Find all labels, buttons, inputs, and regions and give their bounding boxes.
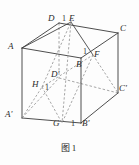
- edge-A-D: [22, 23, 59, 48]
- length-marker-HDprime: 1: [45, 84, 49, 92]
- length-marker-GBprime: 1: [71, 120, 75, 128]
- section-dashed-group: [22, 22, 118, 123]
- length-marker-DE: 1: [62, 15, 66, 23]
- section-line-Aprime-H: [22, 87, 42, 118]
- edge-A-B: [22, 48, 81, 58]
- section-line-F-Cprime: [93, 55, 118, 93]
- vertex-label-D: D: [48, 14, 55, 23]
- vertex-label-B: B: [76, 60, 82, 69]
- vertex-label-A: A: [8, 42, 14, 51]
- point-label-H: H: [32, 80, 39, 89]
- figure-caption: 图1: [0, 141, 139, 154]
- edge-D-C: [59, 23, 118, 33]
- visible-edges-group: [22, 23, 118, 123]
- length-marker-BF: 1: [83, 48, 87, 56]
- point-label-E: E: [69, 14, 75, 23]
- vertex-label-D-prime: D': [51, 70, 59, 79]
- vertex-label-C-prime: C': [119, 84, 127, 93]
- vertex-label-B-prime: B': [82, 119, 89, 128]
- point-label-F: F: [94, 50, 100, 59]
- point-label-G: G: [53, 119, 60, 128]
- section-line-A-E: [22, 22, 71, 48]
- vertex-label-C: C: [120, 24, 126, 33]
- vertex-label-A-prime: A': [5, 110, 12, 119]
- figure-container: A D C B A' D' C' B' E F G H 1 1 1 1 图1: [0, 0, 139, 165]
- caption-label: 图: [61, 143, 72, 153]
- caption-number: 1: [72, 143, 79, 153]
- edge-Aprime-Dprime: [22, 78, 59, 118]
- section-line-E-G: [62, 22, 71, 123]
